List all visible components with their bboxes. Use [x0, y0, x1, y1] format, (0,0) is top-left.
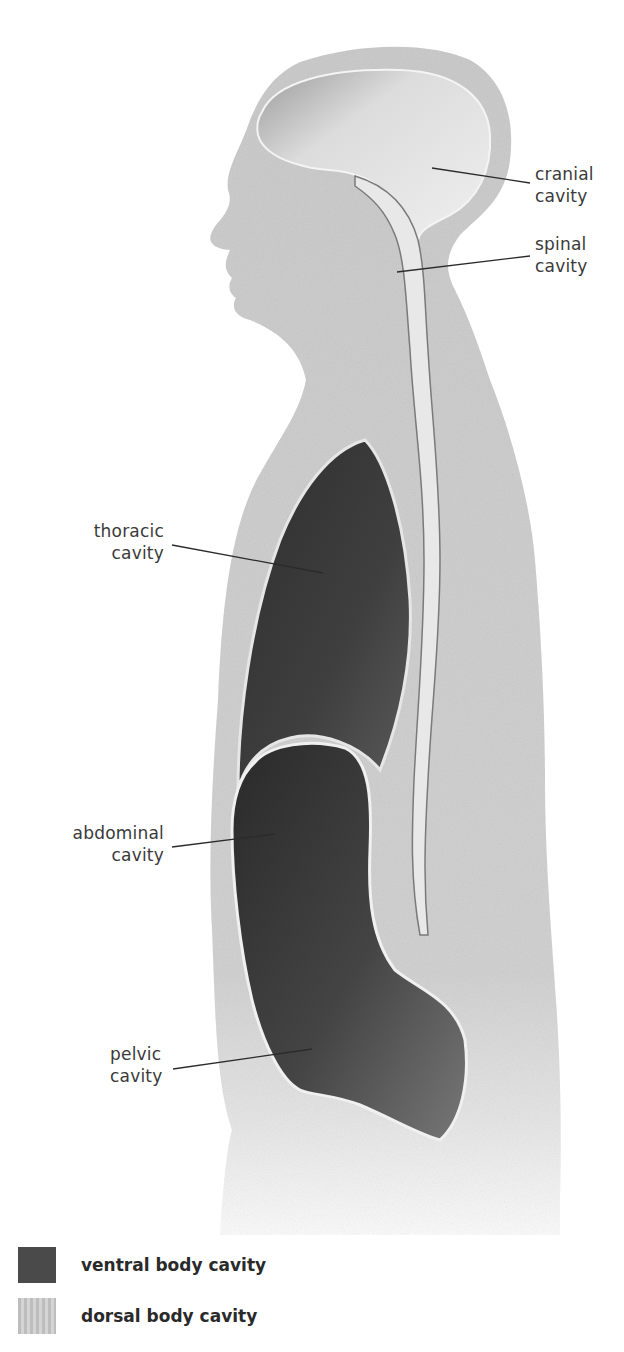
label-thoracic-cavity: thoracic cavity — [94, 520, 164, 564]
legend-label-ventral: ventral body cavity — [81, 1255, 266, 1275]
label-spinal-cavity: spinal cavity — [535, 233, 587, 277]
legend-item-ventral: ventral body cavity — [18, 1247, 266, 1283]
legend-label-dorsal: dorsal body cavity — [81, 1306, 257, 1326]
body-cavities-diagram — [0, 0, 624, 1352]
label-abdominal-cavity: abdominal cavity — [73, 822, 164, 866]
dorsal-swatch — [18, 1298, 56, 1334]
legend-item-dorsal: dorsal body cavity — [18, 1298, 257, 1334]
label-pelvic-cavity: pelvic cavity — [110, 1043, 162, 1087]
ventral-swatch — [18, 1247, 56, 1283]
label-cranial-cavity: cranial cavity — [535, 163, 594, 207]
